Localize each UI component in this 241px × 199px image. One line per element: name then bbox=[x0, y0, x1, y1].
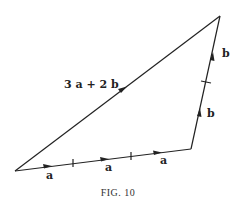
hypotenuse-label: 3 a + 2 b bbox=[64, 78, 119, 91]
vector-triangle-diagram: 3 a + 2 b a a a b b FIG. 10 bbox=[0, 0, 241, 199]
segment-label-a: a bbox=[105, 161, 112, 174]
segment-label-a: a bbox=[46, 169, 53, 182]
segment-label-b: b bbox=[207, 107, 215, 120]
vector-3a-plus-2b bbox=[15, 16, 220, 171]
arrow-icon bbox=[43, 164, 52, 169]
segment-label-b: b bbox=[222, 47, 230, 60]
figure-caption: FIG. 10 bbox=[101, 187, 136, 198]
segment-label-a: a bbox=[160, 154, 167, 167]
